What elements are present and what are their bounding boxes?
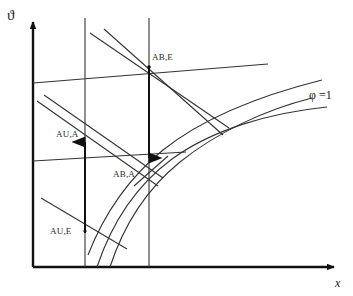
fog-region-curve (110, 98, 312, 267)
marker-AB-E (147, 65, 151, 69)
process-arrows-group (85, 68, 149, 233)
mixing-line-1 (90, 33, 229, 128)
point-markers-group (83, 65, 150, 232)
mixing-line-2 (44, 95, 163, 178)
upper-enthalpy-curve (88, 80, 322, 255)
saturation-curve-phi-1 (97, 107, 327, 267)
mixing-line-3 (37, 101, 158, 186)
axis-group (33, 22, 334, 267)
enthalpy-line-through-AB-E (104, 29, 223, 135)
mollier-diagram-root: ϑ x φ =1 AB,E AU,A AB,A AU,E (0, 0, 353, 296)
marker-AU-E (83, 229, 86, 232)
curve-group (88, 80, 327, 267)
mollier-diagram-canvas (0, 0, 353, 296)
